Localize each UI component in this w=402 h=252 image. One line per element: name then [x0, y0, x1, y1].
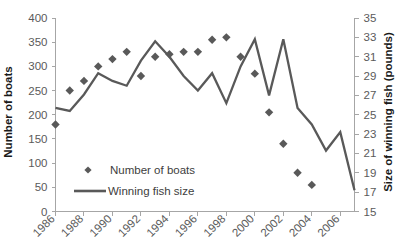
legend-label-fish-size: Winning fish size [108, 185, 194, 197]
y-axis-right-tick-label: 29 [364, 70, 377, 82]
chart-container: 050100150200250300350400 151719212325272… [0, 0, 402, 252]
y-axis-right-tick-label: 15 [364, 206, 377, 218]
y-axis-left-tick-label: 400 [28, 12, 47, 24]
y-axis-left-tick-label: 100 [28, 157, 47, 169]
y-axis-left-tick-label: 150 [28, 133, 47, 145]
y-axis-left-tick-label: 250 [28, 85, 47, 97]
y-axis-right-tick-label: 21 [364, 147, 377, 159]
y-axis-right-tick-label: 31 [364, 51, 377, 63]
y-axis-left-tick-label: 300 [28, 60, 47, 72]
y-axis-right-tick-labels: 1517192123252729313335 [364, 12, 377, 218]
y-axis-right-tick-label: 25 [364, 109, 377, 121]
y-axis-right-title: Size of winning fish (pounds) [382, 32, 394, 192]
y-axis-left-tick-label: 200 [28, 109, 47, 121]
y-axis-right-tick-label: 35 [364, 12, 377, 24]
chart-background [0, 0, 402, 252]
y-axis-right-tick-label: 17 [364, 186, 377, 198]
y-axis-left-title: Number of boats [2, 66, 14, 157]
dual-axis-chart: 050100150200250300350400 151719212325272… [0, 0, 402, 252]
y-axis-left-tick-label: 50 [35, 181, 48, 193]
y-axis-right-tick-label: 19 [364, 167, 377, 179]
y-axis-right-tick-label: 27 [364, 89, 377, 101]
y-axis-left-tick-label: 350 [28, 36, 47, 48]
y-axis-right-tick-label: 33 [364, 31, 377, 43]
y-axis-right-tick-label: 23 [364, 128, 377, 140]
legend-label-boats: Number of boats [110, 164, 195, 176]
